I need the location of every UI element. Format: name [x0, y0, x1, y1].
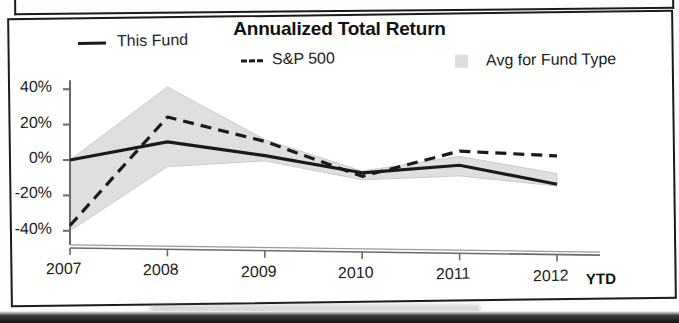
y-axis-tick-label: 0% [0, 149, 52, 168]
x-axis-ytd-label: YTD [586, 269, 616, 287]
y-axis-tick-label: -40% [0, 219, 52, 238]
x-axis-tick-label: 2012 [533, 266, 569, 285]
y-axis-tick-label: 20% [0, 113, 52, 132]
x-axis-tick-label: 2009 [241, 262, 277, 281]
x-axis-tick-label: 2008 [143, 261, 179, 280]
y-axis-tick-label: 40% [0, 78, 52, 97]
x-axis-tick-label: 2010 [338, 264, 374, 283]
y-axis-tick-label: -20% [0, 184, 52, 203]
x-axis-tick-label: 2007 [46, 260, 82, 279]
x-axis-tick-label: 2011 [435, 265, 470, 284]
